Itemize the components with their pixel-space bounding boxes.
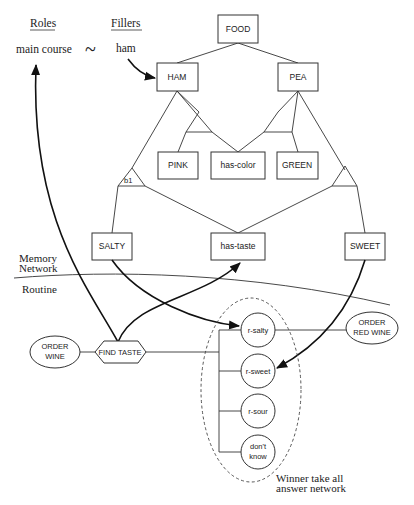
node-r-sour[interactable]: r-sour [241,394,275,428]
node-r-salty[interactable]: r-salty [241,313,275,347]
node-green[interactable]: GREEN [277,152,318,179]
svg-text:has-color: has-color [221,160,256,170]
svg-text:r-salty: r-salty [248,326,269,335]
node-sweet[interactable]: SWEET [345,233,385,260]
filler-value: ham [116,42,136,54]
role-value: main course [16,43,72,55]
svg-text:GREEN: GREEN [282,160,312,170]
svg-text:RED WINE: RED WINE [353,328,391,337]
node-ham[interactable]: HAM [157,63,198,91]
svg-text:SALTY: SALTY [99,241,126,251]
svg-text:PEA: PEA [289,72,306,82]
node-has-color[interactable]: has-color [211,152,265,179]
answer-network-caption-line2: answer network [276,482,346,494]
svg-text:ORDER: ORDER [358,318,386,327]
svg-text:PINK: PINK [168,160,188,170]
svg-text:HAM: HAM [168,72,187,82]
node-find-taste[interactable]: FIND TASTE [95,341,146,363]
svg-text:SWEET: SWEET [350,241,380,251]
arrow-salty-to-rsalty [112,260,239,326]
arrow-ham-to-HAM [128,59,155,78]
node-pink[interactable]: PINK [158,152,198,179]
svg-text:FOOD: FOOD [226,24,251,34]
arrow-sweet-to-rsweet [277,260,365,368]
svg-text:know: know [249,452,267,461]
node-order-wine[interactable]: ORDER WINE [30,336,80,368]
diagram-canvas: Roles Fillers main course ~ ham b1 [0,0,414,505]
svg-text:don't: don't [250,442,267,451]
node-r-sweet[interactable]: r-sweet [241,354,275,388]
node-dont-know[interactable]: don't know [241,435,275,469]
roles-fillers-header: Roles Fillers main course ~ ham [16,17,142,60]
b1-label: b1 [124,176,132,185]
svg-text:r-sour: r-sour [248,407,268,416]
node-food[interactable]: FOOD [218,15,258,43]
svg-text:FIND TASTE: FIND TASTE [98,348,141,357]
arrow-findtaste-to-maincourse [36,65,118,342]
svg-text:WINE: WINE [45,352,65,361]
node-pea[interactable]: PEA [278,63,318,91]
roles-heading: Roles [30,17,57,29]
node-has-taste[interactable]: has-taste [211,233,265,260]
routine-label: Routine [22,283,57,295]
memory-routine-boundary [14,274,390,305]
node-order-red-wine[interactable]: ORDER RED WINE [346,312,398,344]
binding-tilde: ~ [85,38,96,60]
svg-text:ORDER: ORDER [41,342,69,351]
svg-text:has-taste: has-taste [221,241,256,251]
svg-text:r-sweet: r-sweet [246,367,272,376]
memory-network-label-line2: Network [19,262,58,274]
node-salty[interactable]: SALTY [92,233,132,260]
fillers-heading: Fillers [111,17,141,29]
memory-network-links [112,43,365,233]
